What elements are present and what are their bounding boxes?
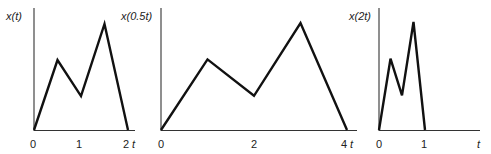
x-tick-0: 0 — [158, 138, 164, 150]
x-axis-label: t — [350, 138, 354, 150]
plot-x-0.5t: x(0.5t) 0 2 4 t — [120, 8, 357, 150]
figure: x(t) 0 1 2 t x(0.5t) 0 2 4 t x(2t) 0 1 t — [0, 0, 491, 154]
y-axis-label: x(0.5t) — [120, 10, 153, 22]
x-tick-0: 0 — [376, 138, 382, 150]
x-axis-label: t — [477, 138, 481, 150]
x-tick-1: 2 — [251, 138, 257, 150]
y-axis-label: x(t) — [5, 10, 22, 22]
y-axis-label: x(2t) — [348, 10, 371, 22]
plot-x-t: x(t) 0 1 2 t — [5, 8, 136, 150]
signal-curve — [34, 24, 128, 130]
signal-curve — [379, 22, 425, 130]
x-tick-1: 1 — [76, 138, 82, 150]
x-axis-label: t — [132, 138, 136, 150]
x-tick-1: 1 — [421, 138, 427, 150]
signal-curve — [161, 23, 347, 130]
x-tick-2: 2 — [123, 138, 129, 150]
x-tick-2: 4 — [341, 138, 347, 150]
x-tick-0: 0 — [30, 138, 36, 150]
plot-x-2t: x(2t) 0 1 t — [348, 8, 481, 150]
